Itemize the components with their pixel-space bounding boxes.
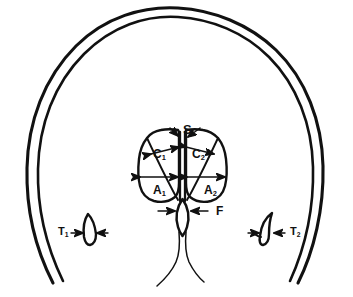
tentorium-right-limb	[185, 232, 204, 282]
label-c1: C1	[153, 148, 166, 160]
figure-container: S C1 C2 A1 A2 F T1 T2	[0, 0, 353, 297]
right-temporal-horn	[260, 213, 272, 245]
label-a2-subscript: 2	[213, 189, 217, 198]
label-c2-subscript: 2	[201, 153, 205, 162]
label-t1-subscript: 1	[65, 231, 69, 238]
label-f: F	[216, 205, 223, 217]
label-a1-text: A	[153, 183, 162, 197]
label-a1-subscript: 1	[162, 189, 166, 198]
septum-pellucidum	[180, 132, 185, 201]
tentorium-left-limb	[157, 232, 180, 286]
label-t2-subscript: 2	[297, 231, 301, 238]
label-t2: T2	[290, 226, 301, 237]
label-s-text: S	[183, 122, 192, 137]
label-a1: A1	[153, 184, 166, 196]
label-t1: T1	[58, 226, 69, 237]
label-t2-text: T	[290, 225, 297, 237]
label-c1-text: C	[153, 147, 162, 161]
label-t1-text: T	[58, 225, 65, 237]
label-s: S	[183, 123, 192, 136]
label-c2: C2	[192, 148, 205, 160]
label-a2-text: A	[204, 183, 213, 197]
third-ventricle	[177, 199, 189, 236]
label-f-text: F	[216, 204, 223, 218]
label-c1-subscript: 1	[162, 153, 166, 162]
label-c2-text: C	[192, 147, 201, 161]
left-temporal-horn	[84, 214, 96, 245]
label-a2: A2	[204, 184, 217, 196]
brain-cross-section-drawing	[0, 0, 353, 297]
